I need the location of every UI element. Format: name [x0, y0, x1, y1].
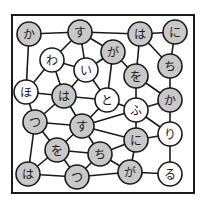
character-node[interactable]: は	[128, 22, 152, 46]
character-node[interactable]: か	[158, 88, 182, 112]
character-node[interactable]: ち	[158, 54, 182, 78]
character-node[interactable]: と	[95, 88, 119, 112]
node-character: ふ	[130, 104, 142, 118]
node-character: わ	[46, 54, 58, 68]
character-node[interactable]: つ	[23, 110, 47, 134]
node-character: か	[23, 28, 35, 42]
node-character: に	[169, 26, 181, 40]
character-node[interactable]: ふ	[124, 98, 148, 122]
character-node[interactable]: す	[70, 114, 94, 138]
character-node[interactable]: わ	[40, 48, 64, 72]
character-node[interactable]: か	[17, 22, 41, 46]
node-character: か	[164, 94, 176, 108]
node-character: ち	[164, 60, 176, 74]
node-character: す	[74, 26, 86, 40]
node-character: す	[76, 120, 88, 134]
character-node[interactable]: り	[158, 122, 182, 146]
node-character: ち	[94, 148, 106, 162]
node-character: が	[107, 45, 119, 60]
character-node[interactable]: を	[45, 138, 69, 162]
character-node[interactable]: ち	[88, 142, 112, 166]
node-character: を	[51, 144, 63, 158]
character-node[interactable]: が	[101, 40, 125, 64]
node-character: る	[164, 168, 176, 182]
character-node[interactable]: に	[163, 20, 187, 44]
character-node[interactable]: つ	[65, 165, 89, 189]
character-node[interactable]: い	[74, 58, 98, 82]
node-character: ほ	[20, 86, 32, 100]
node-character: は	[134, 28, 146, 42]
character-node[interactable]: は	[52, 84, 76, 108]
puzzle-board: かすはにわいがをちほはとふかつすにりをちはつがる	[0, 0, 205, 213]
character-node[interactable]: る	[158, 162, 182, 186]
character-node[interactable]: を	[124, 64, 148, 88]
node-character: と	[101, 94, 113, 108]
node-character: を	[130, 70, 142, 84]
character-node[interactable]: が	[118, 160, 142, 184]
node-character: い	[80, 64, 92, 78]
node-character: が	[124, 165, 136, 180]
node-character: に	[130, 134, 142, 148]
character-node[interactable]: ほ	[14, 80, 38, 104]
node-character: つ	[29, 116, 41, 130]
node-character: は	[58, 90, 70, 104]
node-character: り	[164, 128, 176, 142]
character-node[interactable]: す	[68, 20, 92, 44]
character-node[interactable]: に	[124, 128, 148, 152]
character-node[interactable]: は	[16, 162, 40, 186]
node-character: は	[22, 168, 34, 182]
node-character: つ	[71, 171, 83, 185]
